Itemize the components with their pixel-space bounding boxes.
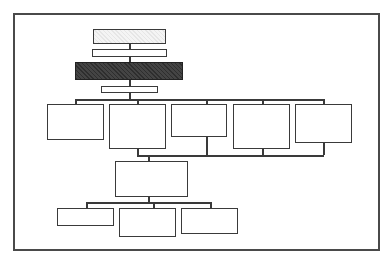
rise-line (206, 137, 208, 155)
top-box (93, 29, 166, 44)
row-box-2 (109, 104, 166, 149)
row-box-3 (171, 104, 227, 137)
row-box-5 (295, 104, 352, 143)
row-box-1 (47, 104, 104, 140)
highlighted-box (75, 62, 183, 80)
lower-bus-line (137, 155, 324, 157)
bottom-bus-line (86, 202, 211, 204)
bottom-box-3 (181, 208, 238, 234)
bottom-box-2 (119, 208, 176, 237)
bottom-box-1 (57, 208, 114, 226)
rise-line (323, 143, 325, 155)
second-box (92, 49, 167, 57)
fourth-box (101, 86, 158, 93)
top-bus-line (75, 99, 324, 101)
row-box-4 (233, 104, 290, 149)
middle-box (115, 161, 188, 197)
